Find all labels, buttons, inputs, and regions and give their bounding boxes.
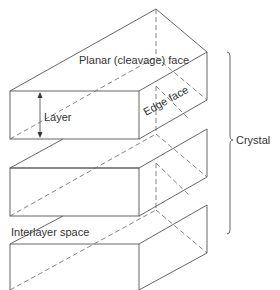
crystal-brace xyxy=(227,52,233,234)
interlayer-space-label: Interlayer space xyxy=(11,226,89,238)
edge-face-label: Edge face xyxy=(141,83,190,118)
layer-thickness-arrow xyxy=(38,92,43,138)
crystal-diagram: Planar (cleavage) face Edge face Layer I… xyxy=(0,0,280,290)
planar-face-label: Planar (cleavage) face xyxy=(79,54,189,66)
layer-label: Layer xyxy=(44,111,72,123)
crystal-label: Crystal xyxy=(236,134,270,146)
